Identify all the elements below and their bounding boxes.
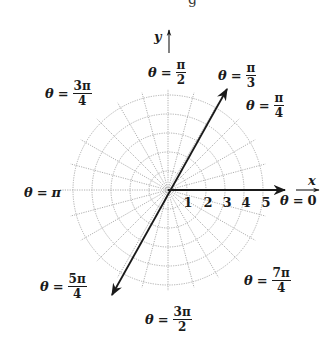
theta-symbol: θ <box>45 87 54 100</box>
theta-symbol: θ <box>244 274 253 287</box>
y-axis-label: y <box>154 30 162 43</box>
grid-ray-60deg <box>168 103 219 191</box>
equals-sign: = <box>257 274 268 287</box>
grid-ray-210deg <box>81 190 169 241</box>
angle-value: π <box>52 186 62 199</box>
equals-sign: = <box>37 186 48 199</box>
equals-sign: = <box>58 87 69 100</box>
label-theta-3pi-over-2: θ= 3π2 <box>145 306 192 333</box>
theta-symbol: θ <box>40 280 49 293</box>
fraction-denominator: 4 <box>275 106 283 119</box>
grid-ray-150deg <box>81 140 169 191</box>
fraction-denominator: 4 <box>277 281 285 294</box>
equals-sign: = <box>259 99 270 112</box>
radial-tick-2: 2 <box>203 196 212 209</box>
fraction-numerator: 5π <box>68 273 87 287</box>
theta-symbol: θ <box>148 66 157 79</box>
grid-ray-240deg <box>118 190 169 278</box>
ray-pi-over-3 <box>112 89 227 295</box>
fraction-numerator: 3π <box>73 80 92 94</box>
label-theta-7pi-over-4: θ= 7π4 <box>244 267 291 294</box>
fraction-numerator: 7π <box>272 267 291 281</box>
angle-fraction: π2 <box>176 59 187 86</box>
radial-tick-3: 3 <box>222 196 231 209</box>
theta-symbol: θ <box>218 69 227 82</box>
label-theta-pi: θ=π <box>24 186 61 199</box>
fraction-numerator: 3π <box>173 306 192 320</box>
grid-ray-30deg <box>168 140 256 191</box>
grid-ray-105deg <box>142 92 168 190</box>
grid-ray-120deg <box>118 103 169 191</box>
angle-fraction: π4 <box>274 92 285 119</box>
grid-ray-225deg <box>97 190 168 261</box>
equals-sign: = <box>158 313 169 326</box>
grid-ray-75deg <box>168 92 194 190</box>
fraction-denominator: 2 <box>178 320 186 333</box>
radial-tick-5: 5 <box>261 196 270 209</box>
theta-symbol: θ <box>24 186 33 199</box>
equals-sign: = <box>161 66 172 79</box>
angle-fraction: π3 <box>246 62 257 89</box>
label-theta-pi-over-4: θ= π4 <box>246 92 284 119</box>
equals-sign: = <box>231 69 242 82</box>
fraction-denominator: 2 <box>177 73 185 86</box>
angle-value: 0 <box>308 194 317 207</box>
fraction-numerator: π <box>274 92 285 106</box>
angle-fraction: 5π4 <box>68 273 87 300</box>
fraction-denominator: 3 <box>247 76 255 89</box>
label-theta-pi-over-2: θ= π2 <box>148 59 186 86</box>
grid-ray-165deg <box>70 164 168 190</box>
fraction-denominator: 4 <box>73 287 81 300</box>
x-axis-label: x <box>308 174 316 187</box>
grid-ray-135deg <box>97 119 168 190</box>
fraction-denominator: 4 <box>78 94 86 107</box>
grid-ray-195deg <box>70 190 168 216</box>
radial-tick-4: 4 <box>241 196 250 209</box>
angle-fraction: 3π2 <box>173 306 192 333</box>
fraction-numerator: π <box>176 59 187 73</box>
angle-fraction: 7π4 <box>272 267 291 294</box>
theta-symbol: θ <box>280 194 289 207</box>
grid-ray-255deg <box>142 190 168 288</box>
equals-sign: = <box>53 280 64 293</box>
label-theta-pi-over-3: θ= π3 <box>218 62 256 89</box>
label-theta-0: θ=0 <box>280 194 317 207</box>
fraction-numerator: π <box>246 62 257 76</box>
equals-sign: = <box>293 194 304 207</box>
label-theta-3pi-over-4: θ= 3π4 <box>45 80 92 107</box>
radial-tick-1: 1 <box>183 196 192 209</box>
label-theta-5pi-over-4: θ= 5π4 <box>40 273 87 300</box>
cutoff-glyph: g <box>188 0 197 6</box>
theta-symbol: θ <box>145 313 154 326</box>
angle-fraction: 3π4 <box>73 80 92 107</box>
theta-symbol: θ <box>246 99 255 112</box>
